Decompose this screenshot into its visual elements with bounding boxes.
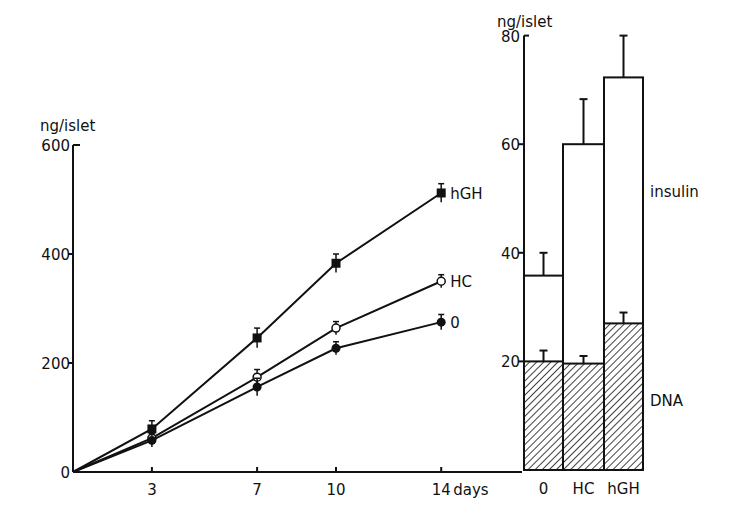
- series-hc: HC: [73, 273, 472, 472]
- line-chart: 0200400600ng/islet371014dayshGHHC0: [40, 117, 522, 499]
- bar-group-0: 0: [524, 253, 563, 498]
- filled-circle-marker: [253, 382, 262, 391]
- bar-group-hc: HC: [563, 99, 604, 498]
- dna-bar: [524, 361, 563, 470]
- open-circle-marker: [332, 324, 340, 332]
- x-tick-label: 10: [326, 481, 345, 499]
- filled-circle-marker: [332, 344, 341, 353]
- category-label: 0: [539, 480, 549, 498]
- bar-chart: 20406080ng/islet0HChGHinsulinDNA: [497, 13, 699, 498]
- dna-bar: [563, 364, 604, 470]
- y-tick-label: 40: [501, 245, 520, 263]
- x-tick-label: 14: [432, 481, 451, 499]
- series-label: HC: [450, 273, 472, 291]
- figure: 0200400600ng/islet371014dayshGHHC0 20406…: [0, 0, 735, 513]
- filled-circle-marker: [437, 318, 446, 327]
- series-label: hGH: [450, 185, 482, 203]
- series-label: 0: [450, 314, 460, 332]
- series-0: 0: [73, 314, 460, 472]
- y-tick-label: 200: [41, 355, 70, 373]
- y-tick-label: 20: [501, 353, 520, 371]
- y-tick-label: 0: [60, 464, 70, 482]
- y-axis-label: ng/islet: [497, 13, 552, 31]
- square-marker: [437, 188, 446, 197]
- dna-bar: [604, 323, 643, 470]
- square-marker: [253, 333, 262, 342]
- x-axis-label: days: [453, 481, 489, 499]
- bar-group-hgh: hGH: [604, 36, 643, 498]
- category-label: HC: [573, 480, 595, 498]
- dna-annotation: DNA: [650, 392, 684, 410]
- square-marker: [332, 259, 341, 268]
- category-label: hGH: [607, 480, 639, 498]
- y-tick-label: 60: [501, 136, 520, 154]
- filled-circle-marker: [147, 436, 156, 445]
- y-tick-label: 400: [41, 246, 70, 264]
- insulin-annotation: insulin: [650, 183, 699, 201]
- x-tick-label: 7: [252, 481, 262, 499]
- y-tick-label: 600: [41, 137, 70, 155]
- open-circle-marker: [437, 277, 445, 285]
- y-axis-label: ng/islet: [40, 117, 95, 135]
- x-tick-label: 3: [147, 481, 157, 499]
